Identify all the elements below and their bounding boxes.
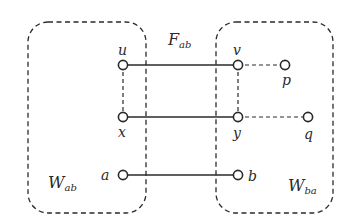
label-a: a (101, 167, 109, 183)
label-f: F (167, 30, 180, 49)
node-q (303, 112, 312, 121)
node-x (118, 112, 127, 121)
node-u (118, 60, 127, 69)
label-y: y (232, 125, 242, 141)
label-v: v (233, 42, 241, 58)
label-w-ba-main: W (288, 176, 306, 195)
node-b (233, 170, 242, 179)
label-u: u (118, 42, 127, 58)
label-p: p (282, 72, 291, 88)
label-w-ba-subscript: ba (304, 185, 316, 196)
node-v (233, 60, 242, 69)
label-w-ab-main: W (48, 173, 66, 192)
label-b: b (248, 168, 257, 184)
label-w-ba: Wba (288, 176, 317, 196)
label-q: q (304, 126, 313, 142)
node-a (118, 170, 127, 179)
label-x: x (118, 124, 126, 140)
label-w-ab-subscript: ab (64, 182, 76, 193)
label-f-subscript: ab (179, 39, 191, 50)
node-y (233, 112, 242, 121)
label-w-ab: Wab (48, 173, 77, 193)
node-p (280, 60, 289, 69)
graph-diagram: u x a v y b p q Fab Wab Wba (0, 0, 353, 223)
label-f-ab: Fab (167, 30, 191, 50)
